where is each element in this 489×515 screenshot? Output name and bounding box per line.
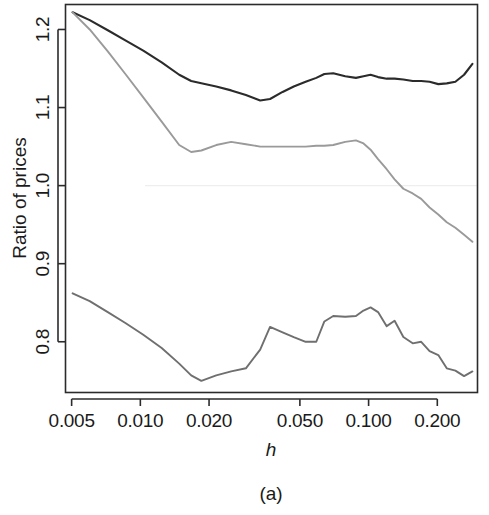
- figure-panel: 0.80.91.01.11.2 0.0050.0100.0200.0500.10…: [0, 0, 489, 515]
- x-tick-label: 0.020: [186, 410, 232, 431]
- y-tick-label: 1.2: [32, 17, 53, 43]
- series-group: [73, 12, 473, 380]
- y-axis-title: Ratio of prices: [9, 137, 30, 258]
- y-axis: 0.80.91.01.11.2: [32, 17, 65, 355]
- series-upper-curve: [73, 12, 473, 100]
- y-tick-label: 0.8: [32, 329, 53, 355]
- x-axis: 0.0050.0100.0200.0500.1000.200: [49, 399, 461, 431]
- y-tick-label: 1.1: [32, 95, 53, 121]
- series-lower-curve: [73, 293, 473, 380]
- x-tick-label: 0.010: [117, 410, 163, 431]
- series-middle-curve: [73, 12, 473, 242]
- chart-svg: 0.80.91.01.11.2 0.0050.0100.0200.0500.10…: [0, 0, 489, 515]
- x-tick-label: 0.005: [49, 410, 95, 431]
- figure-caption: (a): [259, 483, 282, 504]
- x-axis-title: h: [266, 439, 277, 460]
- x-tick-label: 0.200: [414, 410, 460, 431]
- plot-frame: [66, 5, 478, 393]
- x-tick-label: 0.100: [346, 410, 392, 431]
- y-tick-label: 1.0: [32, 173, 53, 199]
- y-tick-label: 0.9: [32, 251, 53, 277]
- x-tick-label: 0.050: [277, 410, 323, 431]
